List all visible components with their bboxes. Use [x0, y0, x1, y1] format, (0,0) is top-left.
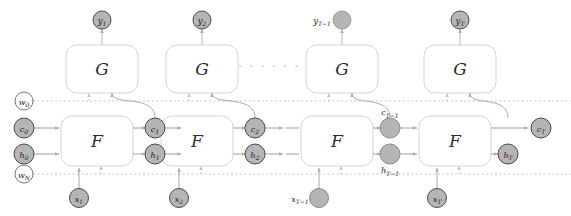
hidden-state-node-h2-sub: 2 — [255, 154, 260, 161]
hidden-state-node-h0-sub: 0 — [25, 154, 29, 161]
input-node-xT: xT — [428, 189, 447, 208]
input-node-x1-sub: 1 — [79, 198, 83, 205]
hidden-state-node-hT-1-sub: T−1 — [386, 169, 399, 176]
hidden-state-node-h1-sub: 1 — [156, 154, 160, 161]
svg-text:cT−1: cT−1 — [381, 108, 398, 119]
cell-state-node-c0-sub: 0 — [24, 128, 28, 135]
state-feedback-curves — [112, 93, 508, 118]
generator-block-1: G — [66, 45, 138, 93]
output-node-y2-sub: 2 — [201, 20, 206, 27]
generator-block-2: G — [166, 45, 238, 93]
svg-text:hT−1: hT−1 — [381, 166, 399, 177]
weight-to-recurrent-connectors — [101, 166, 459, 174]
weight-to-generator-connectors — [89, 93, 447, 101]
hidden-state-node-hT: hT — [498, 144, 518, 164]
cell-state-node-c0: c0 — [14, 118, 34, 138]
diagram-canvas: F F F F G G G G · · · · · · — [0, 0, 571, 216]
weight-node-w0: w0 — [15, 92, 33, 110]
output-node-y1: y1 — [93, 11, 111, 29]
output-node-yT: yT — [451, 11, 469, 29]
cell-state-node-cT-1-sub: T−1 — [386, 111, 399, 118]
cell-state-node-cT-1: cT−1 — [380, 108, 400, 139]
generator-block-4: G — [424, 45, 496, 93]
output-node-y1-sub: 1 — [102, 20, 106, 27]
cell-state-node-c2: c2 — [245, 118, 265, 138]
recurrent-block-4-label: F — [448, 131, 462, 151]
weight-node-wN-sub: N — [24, 174, 31, 181]
cell-state-node-c1: c1 — [145, 118, 165, 138]
svg-text:yT−1: yT−1 — [312, 16, 331, 27]
recurrent-block-1-label: F — [90, 131, 104, 151]
output-node-yT-1-sub: T−1 — [318, 20, 331, 27]
output-node-yT-1: yT−1 — [312, 11, 351, 29]
generator-block-2-label: G — [195, 59, 209, 79]
generator-block-3-label: G — [335, 59, 349, 79]
input-node-xT-1: xT−1 — [291, 189, 328, 208]
input-node-x1: x1 — [70, 189, 89, 208]
recurrent-block-2: F — [161, 116, 233, 166]
hidden-state-node-hT-1: hT−1 — [380, 144, 400, 176]
recurrent-block-4: F — [419, 116, 491, 166]
input-node-xT-1-sub: T−1 — [296, 198, 309, 205]
weight-node-wN: wN — [15, 165, 33, 183]
unrolled-rnn-diagram: F F F F G G G G · · · · · · — [0, 0, 571, 216]
output-node-y2: y2 — [193, 11, 211, 29]
cell-state-node-c2-sub: 2 — [254, 128, 259, 135]
svg-text:xT−1: xT−1 — [291, 194, 308, 205]
recurrent-block-3-label: F — [330, 131, 344, 151]
hidden-state-node-h1: h1 — [145, 144, 165, 164]
recurrent-block-3: F — [301, 116, 373, 166]
generator-block-4-label: G — [453, 59, 467, 79]
input-node-x2-sub: 2 — [178, 198, 183, 205]
hidden-state-node-h2: h2 — [245, 144, 265, 164]
ellipsis-separator: · · · · · · — [238, 59, 300, 74]
input-node-x2: x2 — [170, 189, 189, 208]
recurrent-block-1: F — [61, 116, 133, 166]
weight-node-w0-sub: 0 — [26, 101, 30, 108]
generator-output-arrows — [102, 29, 460, 45]
cell-state-node-c1-sub: 1 — [155, 128, 159, 135]
hidden-state-node-h0: h0 — [14, 144, 34, 164]
generator-block-1-label: G — [95, 59, 109, 79]
cell-state-node-cT: cT — [531, 118, 551, 138]
generator-block-3: G — [306, 45, 378, 93]
recurrent-block-2-label: F — [190, 131, 204, 151]
